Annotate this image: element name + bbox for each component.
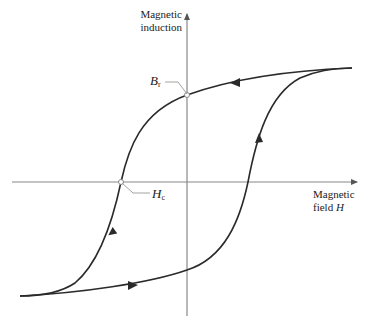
y-axis-label: Magnetic induction xyxy=(122,8,182,34)
y-axis-label-line1: Magnetic xyxy=(122,8,182,21)
x-axis-symbol: H xyxy=(336,201,344,213)
remanence-point xyxy=(185,93,190,98)
coercivity-label: Hc xyxy=(152,187,165,204)
coercivity-symbol: H xyxy=(152,186,161,201)
remanence-leader xyxy=(165,82,187,94)
remanence-label: Br xyxy=(150,74,161,91)
x-axis-label: Magnetic field H xyxy=(313,188,355,214)
x-axis-label-line2: field H xyxy=(313,201,355,214)
arrow-up-right-icon xyxy=(255,133,263,143)
x-axis-label-word: field xyxy=(313,201,333,213)
coercivity-leader xyxy=(122,183,150,193)
coercivity-subscript: c xyxy=(161,193,165,202)
remanence-subscript: r xyxy=(158,80,161,89)
x-axis-label-line1: Magnetic xyxy=(313,188,355,201)
hysteresis-diagram xyxy=(0,0,371,323)
remanence-symbol: B xyxy=(150,73,158,88)
y-axis-label-line2: induction xyxy=(122,21,182,34)
arrow-top-left-icon xyxy=(230,78,240,87)
